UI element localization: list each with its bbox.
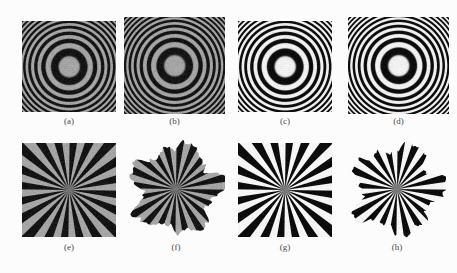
figure-container: (a)(b)(c)(d)(e)(f)(g)(h) [0, 0, 457, 273]
panel-image-h [348, 140, 446, 238]
panel-label-e: (e) [22, 242, 116, 252]
panel-image-d [348, 17, 449, 114]
panel-image-e [22, 143, 116, 237]
panel-image-c [238, 21, 332, 112]
figure-panel-f [127, 140, 225, 238]
panel-label-d: (d) [348, 116, 449, 126]
panel-image-a [22, 21, 116, 112]
panel-label-f: (f) [127, 242, 225, 252]
panel-image-b [124, 17, 225, 114]
panel-label-h: (h) [348, 242, 446, 252]
figure-panel-h [348, 140, 446, 238]
figure-panel-a [22, 21, 116, 112]
panel-label-g: (g) [238, 242, 332, 252]
panel-label-b: (b) [124, 116, 225, 126]
figure-panel-d [348, 17, 449, 114]
figure-panel-b [124, 17, 225, 114]
panel-image-f [127, 140, 225, 238]
figure-panel-e [22, 143, 116, 237]
panel-label-a: (a) [22, 116, 116, 126]
figure-panel-g [238, 143, 332, 237]
panel-image-g [238, 143, 332, 237]
panel-label-c: (c) [238, 116, 332, 126]
figure-panel-c [238, 21, 332, 112]
